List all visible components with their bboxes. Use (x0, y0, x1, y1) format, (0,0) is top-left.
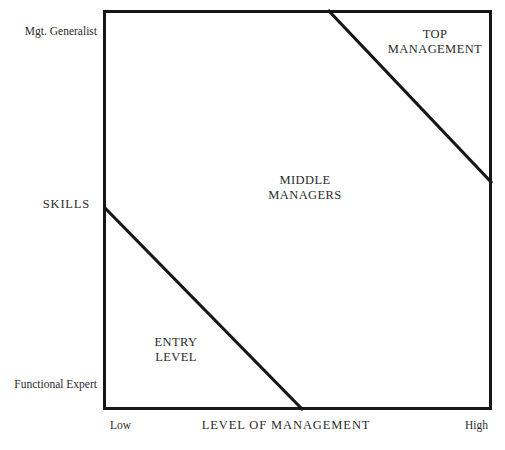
y-axis-top-label: Mgt. Generalist (0, 25, 97, 37)
y-axis-title: SKILLS (0, 197, 90, 212)
zone-label-entry-level-line1: ENTRY (126, 335, 226, 350)
zone-label-middle-managers-line1: MIDDLE (243, 173, 367, 188)
x-axis-title: LEVEL OF MANAGEMENT (186, 418, 386, 433)
zone-label-entry-level-line2: LEVEL (126, 350, 226, 365)
x-axis-low-label: Low (110, 419, 131, 431)
skills-vs-level-of-management-diagram: TOP MANAGEMENT MIDDLE MANAGERS ENTRY LEV… (0, 0, 505, 450)
zone-label-top-management: TOP MANAGEMENT (375, 27, 495, 57)
zone-label-middle-managers: MIDDLE MANAGERS (243, 173, 367, 203)
zone-label-entry-level: ENTRY LEVEL (126, 335, 226, 365)
zone-label-top-management-line2: MANAGEMENT (375, 42, 495, 57)
y-axis-bottom-label: Functional Expert (0, 378, 97, 390)
zone-label-middle-managers-line2: MANAGERS (243, 188, 367, 203)
zone-label-top-management-line1: TOP (375, 27, 495, 42)
x-axis-high-label: High (465, 419, 488, 431)
